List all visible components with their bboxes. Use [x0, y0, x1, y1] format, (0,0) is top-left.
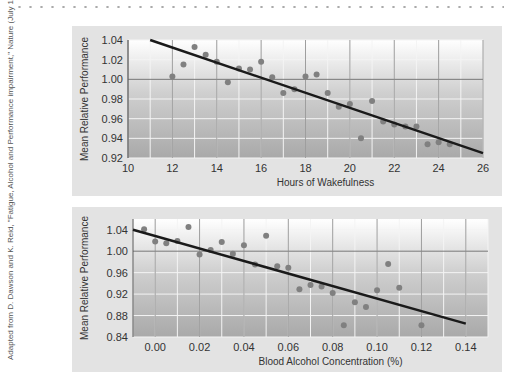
x-tick-label: 0.06: [278, 341, 299, 353]
x-tick-label: 18: [299, 162, 311, 174]
data-point: [219, 239, 225, 245]
y-tick-label: 0.84: [107, 331, 128, 343]
data-point: [258, 59, 264, 65]
x-tick-label: 12: [166, 162, 178, 174]
data-point: [197, 251, 203, 257]
data-point: [241, 242, 247, 248]
x-tick-label: 0.08: [322, 341, 343, 353]
y-tick-label: 1.04: [102, 34, 123, 46]
data-point: [436, 139, 442, 145]
x-tick-label: 26: [477, 162, 489, 174]
data-point: [418, 322, 424, 328]
data-point: [163, 240, 169, 246]
x-tick-label: 16: [255, 162, 267, 174]
x-tick-label: 22: [388, 162, 400, 174]
y-tick-label: 0.94: [102, 132, 123, 144]
data-point: [180, 62, 186, 68]
y-tick-label: 0.88: [107, 310, 128, 322]
x-axis-label: Blood Alcohol Concentration (%): [259, 356, 403, 367]
x-tick-label: 0.14: [455, 341, 476, 353]
data-point: [303, 73, 309, 79]
dotted-border: [14, 3, 504, 11]
data-point: [230, 251, 236, 257]
x-tick-label: 0.12: [411, 341, 432, 353]
data-point: [192, 44, 198, 50]
data-point: [369, 98, 375, 104]
data-point: [325, 90, 331, 96]
x-tick-label: 24: [433, 162, 445, 174]
data-point: [263, 233, 269, 239]
data-point: [352, 299, 358, 305]
y-tick-label: 1.00: [107, 245, 128, 257]
data-point: [152, 239, 158, 245]
y-tick-label: 0.98: [102, 93, 123, 105]
chart-alcohol: 0.840.880.920.961.001.040.000.020.040.06…: [72, 207, 502, 372]
data-point: [330, 290, 336, 296]
chart-panel-alcohol: 0.840.880.920.961.001.040.000.020.040.06…: [72, 207, 502, 372]
x-tick-label: 0.02: [189, 341, 210, 353]
x-tick-label: 14: [211, 162, 223, 174]
x-tick-label: 20: [344, 162, 356, 174]
y-tick-label: 1.04: [107, 224, 128, 236]
data-point: [308, 282, 314, 288]
x-tick-label: 0.10: [366, 341, 387, 353]
data-point: [314, 71, 320, 77]
chart-panel-wakefulness: 0.920.940.960.981.001.021.04101214161820…: [72, 26, 502, 196]
y-tick-label: 1.00: [102, 73, 123, 85]
data-point: [274, 263, 280, 269]
y-tick-label: 0.96: [102, 113, 123, 125]
data-point: [396, 285, 402, 291]
x-axis-label: Hours of Wakefulness: [277, 177, 374, 188]
x-tick-label: 0.00: [144, 341, 165, 353]
y-tick-label: 0.96: [107, 267, 128, 279]
data-point: [296, 286, 302, 292]
data-point: [185, 224, 191, 230]
y-tick-label: 1.02: [102, 54, 123, 66]
y-axis-label: Mean Relative Performance: [79, 216, 90, 340]
y-tick-label: 0.92: [102, 152, 123, 164]
data-point: [374, 287, 380, 293]
data-point: [341, 322, 347, 328]
data-point: [358, 135, 364, 141]
source-credit: Adapted from D. Dawson and K. Reid, "Fat…: [6, 0, 15, 360]
data-point: [247, 67, 253, 73]
x-tick-label: 10: [122, 162, 134, 174]
y-axis-label: Mean Relative Performance: [79, 37, 90, 161]
chart-wakefulness: 0.920.940.960.981.001.021.04101214161820…: [72, 26, 502, 196]
y-tick-label: 0.92: [107, 288, 128, 300]
data-point: [363, 304, 369, 310]
data-point: [425, 141, 431, 147]
data-point: [385, 261, 391, 267]
data-point: [169, 73, 175, 79]
x-tick-label: 0.04: [233, 341, 254, 353]
data-point: [285, 265, 291, 271]
data-point: [225, 79, 231, 85]
data-point: [280, 90, 286, 96]
